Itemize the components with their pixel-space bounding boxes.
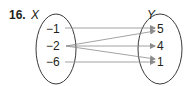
arrow-neg2-to-1 — [66, 46, 155, 59]
mapping-diagram — [0, 0, 193, 86]
domain-value: −1 — [46, 23, 60, 35]
domain-value: −6 — [46, 56, 60, 68]
arrow-neg2-to-5 — [66, 31, 155, 46]
range-value: 5 — [157, 23, 164, 35]
range-value: 4 — [157, 40, 164, 52]
problem-number: 16. — [9, 9, 26, 21]
domain-value: −2 — [46, 40, 60, 52]
domain-label: X — [31, 9, 39, 21]
range-label: Y — [147, 9, 155, 21]
range-value: 1 — [157, 56, 164, 68]
